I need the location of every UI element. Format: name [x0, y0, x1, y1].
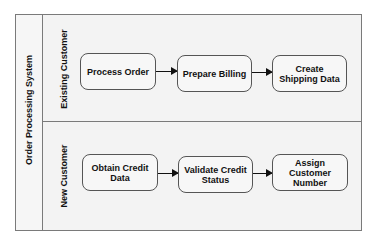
task-validate-credit-status[interactable]: Validate Credit Status — [178, 156, 253, 193]
lane-label-new-customer: New Customer — [59, 144, 69, 207]
task-label: Process Order — [87, 67, 149, 77]
swimlane-pool: Order Processing System Existing Custome… — [15, 14, 362, 231]
task-assign-customer-number[interactable]: Assign Customer Number — [272, 154, 348, 191]
task-label: Prepare Billing — [183, 69, 247, 79]
lane-label-existing-customer: Existing Customer — [59, 29, 69, 109]
flow-arrow-validate-to-assign — [253, 173, 272, 174]
task-label: Create Shipping Data — [277, 64, 342, 84]
task-process-order[interactable]: Process Order — [80, 53, 156, 90]
task-prepare-billing[interactable]: Prepare Billing — [177, 55, 252, 92]
lane-new-customer: New Customer Obtain Credit Data Validate… — [43, 122, 362, 230]
flow-arrow-process-to-billing — [156, 71, 177, 72]
task-create-shipping-data[interactable]: Create Shipping Data — [272, 55, 347, 92]
lane-existing-customer: Existing Customer Process Order Prepare … — [43, 15, 362, 122]
flow-arrow-billing-to-shipping — [252, 72, 272, 73]
task-label: Validate Credit Status — [183, 165, 248, 185]
task-label: Obtain Credit Data — [87, 163, 153, 183]
flow-arrow-obtain-to-validate — [158, 173, 178, 174]
pool-title: Order Processing System — [24, 55, 34, 165]
task-label: Assign Customer Number — [285, 158, 335, 188]
task-obtain-credit-data[interactable]: Obtain Credit Data — [82, 154, 158, 191]
pool-title-column: Order Processing System — [16, 15, 43, 230]
